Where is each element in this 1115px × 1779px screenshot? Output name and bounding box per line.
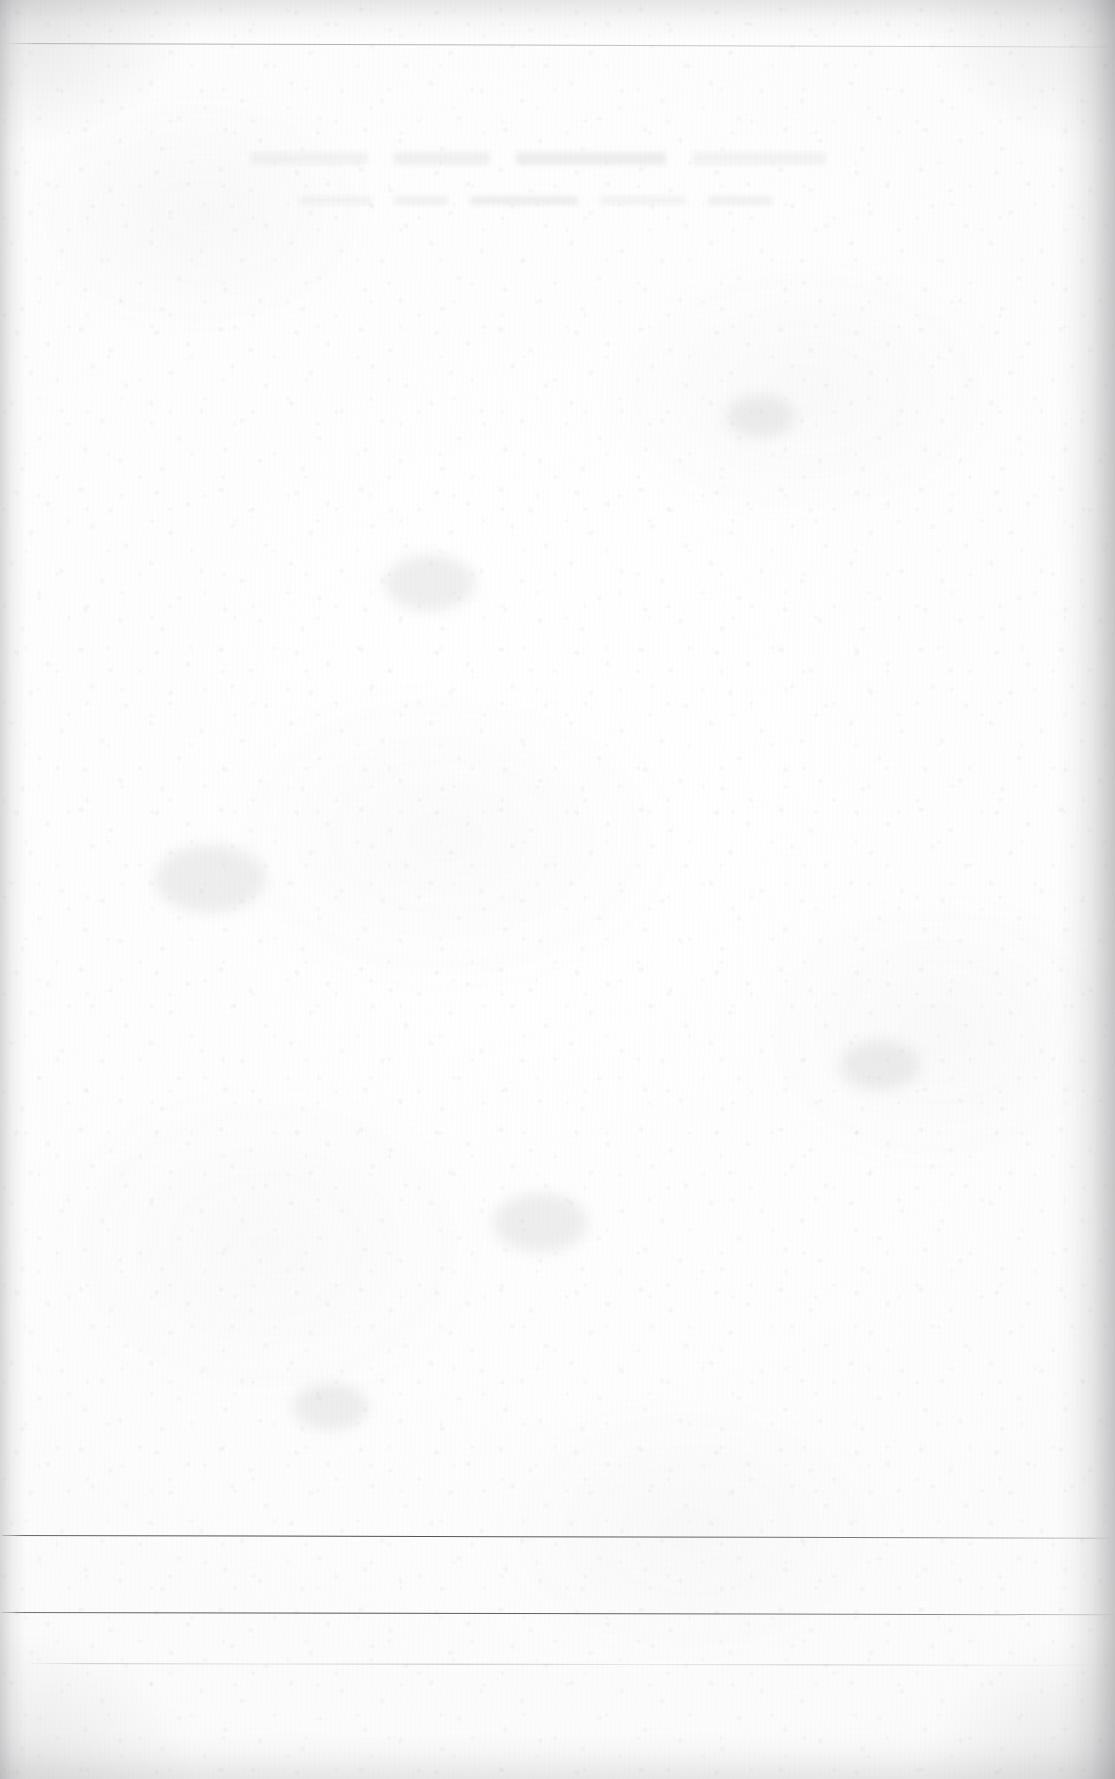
paper-background (0, 0, 1115, 1779)
scanned-page (0, 0, 1115, 1779)
